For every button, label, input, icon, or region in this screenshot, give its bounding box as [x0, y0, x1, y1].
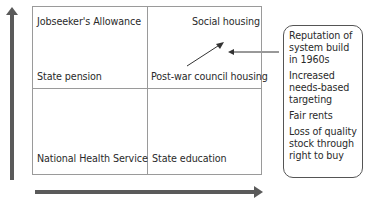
housing-factors-callout: Reputation of system build in 1960s Incr… [283, 25, 363, 178]
label-social-housing: Social housing [192, 16, 260, 27]
label-post-war-council-housing: Post-war council housing [151, 71, 268, 82]
label-national-health-service: National Health Service [37, 153, 148, 164]
grid-horizontal-divider [33, 88, 261, 89]
vertical-axis-arrow-icon [6, 7, 18, 180]
callout-item-fair-rents: Fair rents [289, 110, 358, 122]
label-state-pension: State pension [37, 71, 102, 82]
label-jobseekers-allowance: Jobseeker's Allowance [37, 16, 141, 27]
quadrant-grid [32, 6, 262, 175]
callout-item-needs-based-targeting: Increased needs-based targeting [289, 70, 358, 106]
grid-vertical-divider [147, 7, 148, 174]
callout-item-reputation: Reputation of system build in 1960s [289, 30, 358, 66]
callout-item-right-to-buy: Loss of quality stock through right to b… [289, 126, 358, 162]
horizontal-axis-arrow-icon [35, 186, 263, 198]
label-state-education: State education [152, 153, 227, 164]
